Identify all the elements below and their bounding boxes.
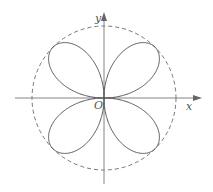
y-axis-arrow-icon — [101, 12, 107, 21]
x-axis-label: x — [186, 100, 193, 113]
origin-label: O — [94, 99, 103, 112]
rose-curve-diagram: y O x — [0, 0, 213, 192]
x-axis-arrow-icon — [193, 95, 202, 101]
y-axis-label: y — [94, 12, 102, 25]
